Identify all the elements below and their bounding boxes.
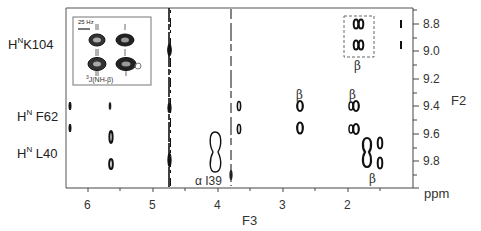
row-label-residue: L40 xyxy=(36,146,58,161)
x-tick-label: 6 xyxy=(84,198,91,212)
y-tick-label: 9.6 xyxy=(423,127,440,141)
nmr-spectrum-plot xyxy=(0,0,481,231)
y-tick-label: 9.2 xyxy=(423,72,440,86)
x-tick-label: 3 xyxy=(279,198,286,212)
x-tick-label: 2 xyxy=(344,198,351,212)
row-label-sup: N xyxy=(26,108,32,117)
x-axis-label: F3 xyxy=(242,213,257,228)
row-label-prefix: H xyxy=(17,109,26,124)
y-tick-label: 9.8 xyxy=(423,154,440,168)
x-tick-label: 4 xyxy=(214,198,221,212)
annotation-beta-k104: β xyxy=(354,59,361,73)
row-label-residue: F62 xyxy=(36,109,58,124)
inset-caption: 3J(NH-β) xyxy=(86,74,113,83)
row-label-l40: HN L40 xyxy=(17,146,58,161)
row-label-sup: N xyxy=(26,145,32,154)
inset-caption-text: J(NH-β) xyxy=(89,76,114,83)
y-tick-label: 9.4 xyxy=(423,99,440,113)
inset-scale-label: 25 Hz xyxy=(78,19,94,25)
y-tick-label: 8.8 xyxy=(423,17,440,31)
annotation-beta-f62-a: β xyxy=(296,88,303,102)
row-label-prefix: H xyxy=(8,37,17,52)
artifact-stripe-4.75 xyxy=(168,8,172,188)
row-label-residue: K104 xyxy=(23,37,53,52)
row-label-sup: N xyxy=(17,36,23,45)
y-axis-label: F2 xyxy=(451,93,466,108)
unit-label: ppm xyxy=(424,186,449,201)
row-label-f62: HN F62 xyxy=(17,109,58,124)
x-tick-label: 5 xyxy=(149,198,156,212)
annotation-beta-l40: β xyxy=(369,172,376,186)
y-tick-label: 9.0 xyxy=(423,44,440,58)
annotation-beta-f62-b: β xyxy=(349,88,356,102)
artifact-stripe-3.8 xyxy=(229,9,232,186)
annotation-alpha-i39: α I39 xyxy=(195,174,222,188)
row-label-k104: HNK104 xyxy=(8,37,54,52)
row-label-prefix: H xyxy=(17,146,26,161)
